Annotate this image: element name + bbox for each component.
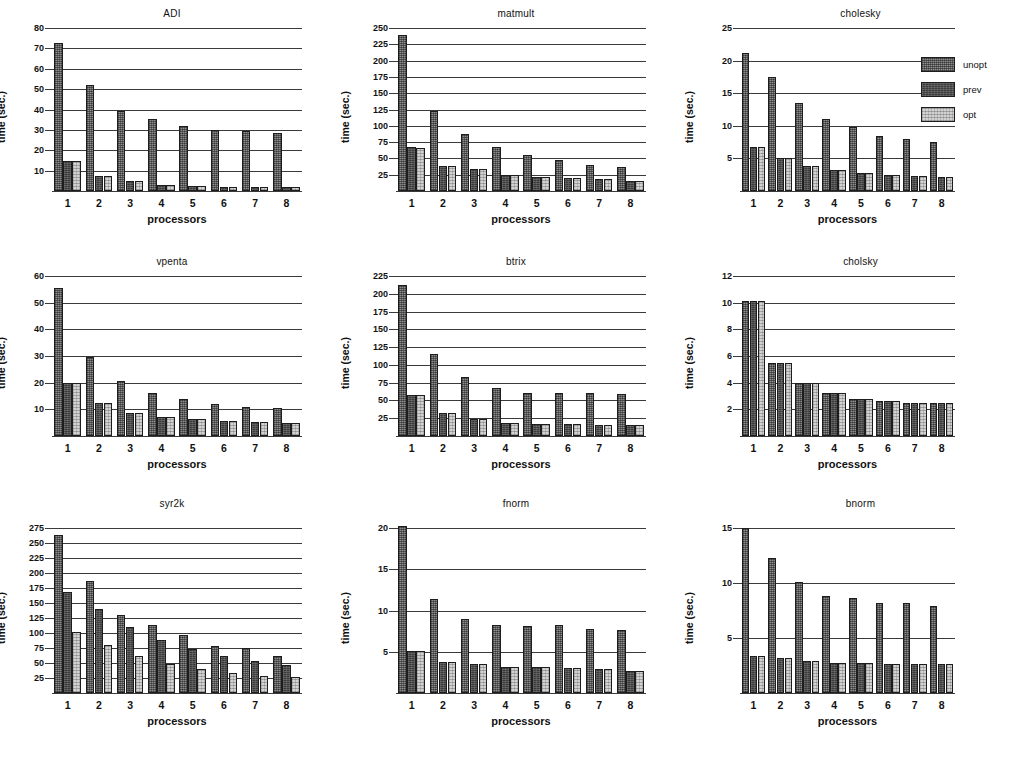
bar-prev bbox=[938, 177, 946, 191]
bar-group bbox=[742, 28, 766, 191]
bar-unopt bbox=[179, 635, 188, 693]
x-tick-label: 5 bbox=[521, 442, 552, 454]
bar-prev bbox=[830, 170, 838, 191]
bar-opt bbox=[541, 424, 550, 436]
y-tickmark bbox=[45, 171, 52, 172]
y-tickmark bbox=[733, 303, 740, 304]
x-tick-label: 8 bbox=[615, 699, 646, 711]
bar-unopt bbox=[849, 127, 857, 191]
bar-group bbox=[822, 528, 846, 693]
bar-opt bbox=[919, 176, 927, 191]
y-tick-label: 30 bbox=[6, 351, 44, 361]
bar-opt bbox=[635, 181, 644, 191]
bar-unopt bbox=[211, 130, 220, 191]
bar-group bbox=[117, 528, 144, 693]
bar-group bbox=[398, 28, 425, 191]
bar-prev bbox=[126, 181, 135, 191]
y-tick-label: 15 bbox=[694, 88, 732, 98]
bar-prev bbox=[126, 627, 135, 693]
y-tickmark bbox=[389, 110, 396, 111]
chart-title: btrix bbox=[344, 256, 688, 267]
bar-group bbox=[179, 528, 206, 693]
bar-prev bbox=[857, 399, 865, 436]
bar-opt bbox=[197, 419, 206, 436]
chart-title: cholesky bbox=[688, 8, 1033, 19]
bar-prev bbox=[532, 424, 541, 436]
y-tickmark bbox=[389, 126, 396, 127]
bar-opt bbox=[166, 185, 175, 191]
y-tick-label: 75 bbox=[350, 378, 388, 388]
bar-opt bbox=[479, 664, 488, 693]
y-tick-label: 10 bbox=[6, 404, 44, 414]
bar-opt bbox=[812, 166, 820, 191]
bar-opt bbox=[416, 148, 425, 191]
x-tick-label: 1 bbox=[52, 197, 83, 209]
bar-prev bbox=[750, 147, 758, 191]
y-tickmark bbox=[389, 28, 396, 29]
y-tick-label: 15 bbox=[694, 523, 732, 533]
x-tick-label: 5 bbox=[177, 699, 208, 711]
x-axis-baseline bbox=[52, 191, 302, 192]
x-tick-label: 5 bbox=[848, 442, 875, 454]
bar-prev bbox=[188, 186, 197, 191]
bar-prev bbox=[938, 403, 946, 436]
bar-unopt bbox=[461, 619, 470, 693]
bar-opt bbox=[72, 632, 81, 693]
legend-item-opt[interactable]: opt bbox=[921, 105, 1029, 124]
bar-unopt bbox=[555, 625, 564, 693]
y-tickmark bbox=[389, 276, 396, 277]
y-tick-label: 100 bbox=[350, 121, 388, 131]
y-tickmark bbox=[389, 294, 396, 295]
bar-unopt bbox=[768, 558, 776, 693]
plot-area: 2468101212345678processors bbox=[740, 276, 955, 436]
bar-unopt bbox=[398, 285, 407, 436]
y-tick-label: 10 bbox=[694, 298, 732, 308]
y-tick-label: 5 bbox=[694, 153, 732, 163]
y-tickmark bbox=[389, 569, 396, 570]
bar-group bbox=[242, 528, 269, 693]
x-tick-label: 1 bbox=[740, 442, 767, 454]
x-tick-label: 1 bbox=[396, 197, 427, 209]
x-tick-label: 1 bbox=[396, 442, 427, 454]
bar-unopt bbox=[86, 357, 95, 436]
x-tick-label: 1 bbox=[740, 699, 767, 711]
bar-prev bbox=[857, 173, 865, 191]
bar-unopt bbox=[903, 603, 911, 693]
y-tick-label: 25 bbox=[694, 23, 732, 33]
bar-prev bbox=[220, 187, 229, 191]
bar-group bbox=[586, 528, 613, 693]
x-tick-label: 5 bbox=[177, 442, 208, 454]
bar-unopt bbox=[148, 119, 157, 191]
legend-item-unopt[interactable]: unopt bbox=[921, 55, 1029, 74]
x-axis-baseline bbox=[740, 436, 955, 437]
bar-prev bbox=[157, 185, 166, 191]
y-tick-label: 125 bbox=[350, 105, 388, 115]
bar-prev bbox=[470, 664, 479, 693]
bar-prev bbox=[938, 664, 946, 693]
bar-unopt bbox=[492, 625, 501, 693]
x-tick-label: 6 bbox=[552, 699, 583, 711]
bar-unopt bbox=[903, 403, 911, 436]
bar-opt bbox=[785, 363, 793, 436]
bar-prev bbox=[282, 187, 291, 191]
bar-prev bbox=[595, 669, 604, 693]
bar-prev bbox=[95, 403, 104, 436]
bar-group bbox=[586, 28, 613, 191]
y-tick-label: 225 bbox=[6, 553, 44, 563]
bar-unopt bbox=[523, 393, 532, 436]
bar-unopt bbox=[768, 77, 776, 191]
y-tick-label: 12 bbox=[694, 271, 732, 281]
x-tick-label: 4 bbox=[146, 699, 177, 711]
bar-unopt bbox=[398, 35, 407, 191]
y-tickmark bbox=[389, 77, 396, 78]
bar-unopt bbox=[461, 134, 470, 191]
x-axis-baseline bbox=[396, 693, 646, 694]
bar-unopt bbox=[211, 404, 220, 436]
y-tick-label: 50 bbox=[350, 153, 388, 163]
x-tick-label: 8 bbox=[271, 197, 302, 209]
bar-prev bbox=[282, 665, 291, 693]
legend-item-prev[interactable]: prev bbox=[921, 80, 1029, 99]
y-tick-label: 50 bbox=[350, 395, 388, 405]
bar-prev bbox=[803, 383, 811, 436]
bar-prev bbox=[830, 663, 838, 693]
